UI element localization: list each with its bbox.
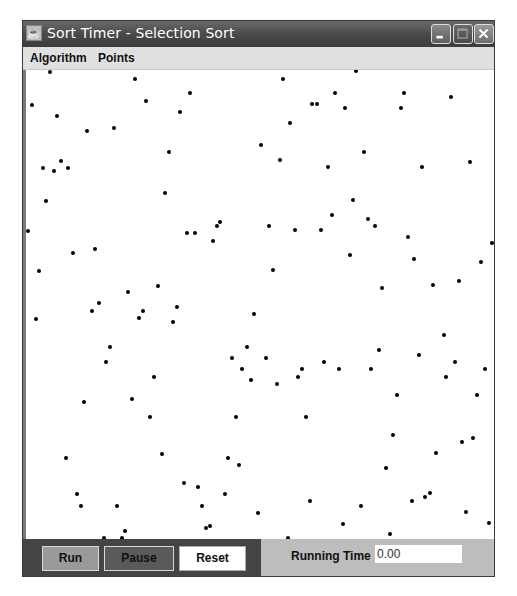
data-point <box>200 504 204 508</box>
data-point <box>112 126 116 130</box>
data-point <box>281 77 285 81</box>
running-time-field[interactable] <box>375 545 462 563</box>
data-point <box>223 492 227 496</box>
data-point <box>406 235 410 239</box>
data-point <box>85 129 89 133</box>
data-point <box>249 378 253 382</box>
data-point <box>237 463 241 467</box>
data-point <box>133 77 137 81</box>
data-point <box>211 239 215 243</box>
data-point <box>252 312 256 316</box>
data-point <box>259 143 263 147</box>
data-point <box>264 356 268 360</box>
data-point <box>30 103 34 107</box>
data-point <box>230 356 234 360</box>
data-point <box>288 121 292 125</box>
data-point <box>182 481 186 485</box>
data-point <box>59 159 63 163</box>
menu-points[interactable]: Points <box>98 51 135 65</box>
data-point <box>193 231 197 235</box>
data-point <box>373 224 377 228</box>
data-point <box>71 251 75 255</box>
data-point <box>483 367 487 371</box>
data-point <box>148 415 152 419</box>
data-point <box>377 348 381 352</box>
data-point <box>52 169 56 173</box>
data-point <box>152 375 156 379</box>
data-point <box>26 229 30 233</box>
data-point <box>278 158 282 162</box>
running-time-label: Running Time <box>291 549 371 563</box>
data-point <box>215 224 219 228</box>
data-point <box>108 345 112 349</box>
data-point <box>348 253 352 257</box>
maximize-button[interactable] <box>453 24 473 44</box>
data-point <box>82 400 86 404</box>
data-point <box>434 451 438 455</box>
control-panel: Run Pause Reset Running Time <box>23 539 494 576</box>
data-point <box>245 345 249 349</box>
menu-algorithm[interactable]: Algorithm <box>30 51 87 65</box>
data-point <box>275 382 279 386</box>
data-point <box>380 286 384 290</box>
pause-button[interactable]: Pause <box>104 546 174 571</box>
minimize-icon <box>432 25 450 43</box>
data-point <box>479 260 483 264</box>
data-point <box>271 268 275 272</box>
data-point <box>97 301 101 305</box>
data-point <box>487 521 491 525</box>
data-point <box>420 165 424 169</box>
close-icon <box>475 25 493 43</box>
data-point <box>208 524 212 528</box>
data-point <box>341 522 345 526</box>
data-point <box>453 360 457 364</box>
data-point <box>388 532 392 536</box>
data-point <box>362 150 366 154</box>
data-point <box>104 360 108 364</box>
data-point <box>402 91 406 95</box>
title-bar[interactable]: ☕ Sort Timer - Selection Sort <box>23 21 494 47</box>
minimize-button[interactable] <box>431 24 451 44</box>
data-point <box>93 247 97 251</box>
reset-button[interactable]: Reset <box>179 546 246 571</box>
data-point <box>399 106 403 110</box>
data-point <box>322 360 326 364</box>
data-point <box>412 257 416 261</box>
data-point <box>90 309 94 313</box>
data-point <box>171 320 175 324</box>
points-canvas <box>23 70 494 539</box>
app-window: ☕ Sort Timer - Selection Sort Algorithm … <box>22 20 495 577</box>
data-point <box>188 91 192 95</box>
data-point <box>37 269 41 273</box>
data-point <box>293 228 297 232</box>
data-point <box>423 495 427 499</box>
data-point <box>428 491 432 495</box>
window-title: Sort Timer - Selection Sort <box>47 25 234 41</box>
data-point <box>178 110 182 114</box>
data-point <box>395 393 399 397</box>
data-point <box>123 529 127 533</box>
data-point <box>167 150 171 154</box>
data-point <box>319 228 323 232</box>
data-point <box>141 309 145 313</box>
data-point <box>175 305 179 309</box>
data-point <box>185 231 189 235</box>
data-point <box>468 160 472 164</box>
data-point <box>326 165 330 169</box>
data-point <box>234 415 238 419</box>
close-button[interactable] <box>474 24 494 44</box>
data-point <box>490 241 494 245</box>
data-point <box>449 95 453 99</box>
menu-bar: Algorithm Points <box>23 47 494 70</box>
maximize-icon <box>454 25 472 43</box>
data-point <box>66 166 70 170</box>
run-button[interactable]: Run <box>42 546 99 571</box>
data-point <box>75 492 79 496</box>
data-point <box>343 106 347 110</box>
data-point <box>431 283 435 287</box>
data-point <box>115 504 119 508</box>
data-point <box>55 114 59 118</box>
java-app-icon[interactable]: ☕ <box>26 25 42 41</box>
button-panel: Run Pause Reset <box>23 539 261 576</box>
data-point <box>460 440 464 444</box>
